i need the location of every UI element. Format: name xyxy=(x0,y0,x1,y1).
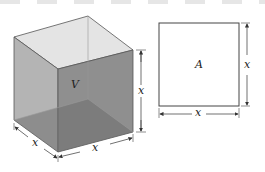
cube-height-label: x xyxy=(138,85,144,96)
square-bottom-label: x xyxy=(195,107,201,118)
diagram-svg xyxy=(0,0,265,172)
figure: V x x x A x x xyxy=(0,0,265,172)
cube-volume-label: V xyxy=(71,79,79,90)
cube-depth-label: x xyxy=(32,137,38,148)
square-right-label: x xyxy=(244,59,250,70)
square-area-label: A xyxy=(195,59,203,70)
cube-width-label: x xyxy=(92,142,98,153)
